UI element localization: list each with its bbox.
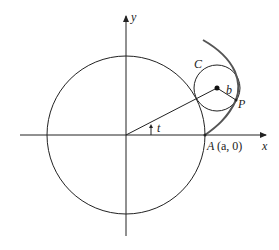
point-a-label: A xyxy=(206,139,215,153)
center-line xyxy=(126,88,217,135)
angle-arrow-icon xyxy=(149,124,153,128)
point-a-coords: (a, 0) xyxy=(217,139,242,153)
point-a-dot xyxy=(204,134,207,137)
x-axis-label: x xyxy=(261,139,268,153)
traced-curve xyxy=(203,40,238,135)
radius-b-label: b xyxy=(226,83,232,97)
point-p-label: P xyxy=(237,97,246,111)
y-axis-label: y xyxy=(130,10,137,24)
diagram-canvas: y x t C b P A (a, 0) xyxy=(0,0,279,250)
circle-c-label: C xyxy=(194,57,203,71)
small-circle-center-dot xyxy=(215,86,220,91)
angle-label: t xyxy=(157,121,161,135)
